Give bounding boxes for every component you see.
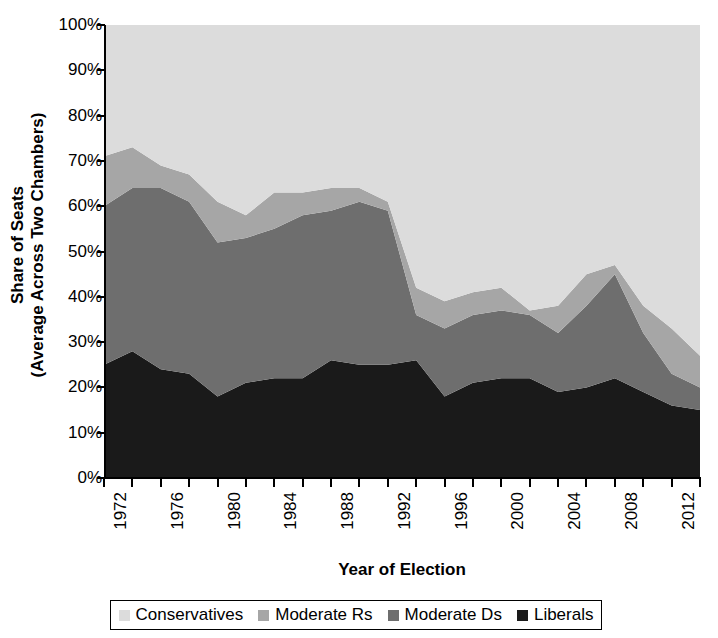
y-axis-tick xyxy=(97,386,105,388)
x-axis-tick xyxy=(160,479,162,487)
legend-swatch-icon xyxy=(119,610,130,621)
y-axis-tick-labels: 0%10%20%30%40%50%60%70%80%90%100% xyxy=(40,0,102,490)
x-axis-tick xyxy=(699,479,701,487)
chart-legend: ConservativesModerate RsModerate DsLiber… xyxy=(110,600,602,630)
x-axis-tick-label-text: 1992 xyxy=(395,492,415,530)
x-axis-tick-label: 1976 xyxy=(151,492,171,554)
area-series-svg xyxy=(104,25,700,478)
x-axis-tick-label-text: 2012 xyxy=(679,492,699,530)
x-axis-tick xyxy=(302,479,304,487)
x-axis-tick-label-text: 1972 xyxy=(111,492,131,530)
x-axis-tick-label: 1980 xyxy=(208,492,228,554)
legend-item[interactable]: Moderate Ds xyxy=(388,605,502,625)
x-axis-tick xyxy=(103,479,105,487)
x-axis-title: Year of Election xyxy=(104,560,700,580)
x-axis-tick xyxy=(358,479,360,487)
x-axis-tick-label-text: 1996 xyxy=(452,492,472,530)
x-axis-tick xyxy=(529,479,531,487)
y-axis-title-line1: Share of Seats xyxy=(8,113,28,378)
x-axis-tick xyxy=(614,479,616,487)
y-axis-tick xyxy=(97,115,105,117)
x-axis-tick xyxy=(444,479,446,487)
plot-area xyxy=(104,25,700,478)
x-axis-tick xyxy=(472,479,474,487)
y-axis-tick xyxy=(97,24,105,26)
x-axis-tick-label: 2012 xyxy=(662,492,682,554)
x-axis-tick-label-text: 2004 xyxy=(565,492,585,530)
legend-label: Liberals xyxy=(534,605,594,625)
x-axis-line xyxy=(104,477,701,479)
legend-swatch-icon xyxy=(517,610,528,621)
legend-swatch-icon xyxy=(258,610,269,621)
x-axis-tick-label: 1996 xyxy=(435,492,455,554)
x-axis-tick-label: 1992 xyxy=(378,492,398,554)
y-axis-tick xyxy=(97,341,105,343)
x-axis-tick xyxy=(387,479,389,487)
y-axis-tick xyxy=(97,160,105,162)
legend-swatch-icon xyxy=(388,610,399,621)
x-axis-tick xyxy=(500,479,502,487)
x-axis-tick xyxy=(217,479,219,487)
x-axis-tick-label: 2000 xyxy=(491,492,511,554)
x-axis-tick xyxy=(557,479,559,487)
y-axis-tick xyxy=(97,432,105,434)
y-axis-tick xyxy=(97,296,105,298)
legend-item[interactable]: Moderate Rs xyxy=(258,605,372,625)
x-axis-tick-label-text: 1976 xyxy=(168,492,188,530)
legend-label: Conservatives xyxy=(136,605,244,625)
legend-item[interactable]: Liberals xyxy=(517,605,594,625)
x-axis-tick xyxy=(273,479,275,487)
legend-label: Moderate Ds xyxy=(405,605,502,625)
legend-label: Moderate Rs xyxy=(275,605,372,625)
x-axis-tick-label-text: 1984 xyxy=(281,492,301,530)
y-axis-tick xyxy=(97,205,105,207)
x-axis-tick-label-text: 2000 xyxy=(508,492,528,530)
x-axis-tick-label-text: 1980 xyxy=(225,492,245,530)
x-axis-tick xyxy=(245,479,247,487)
y-axis-tick-label: 100% xyxy=(59,15,102,35)
stacked-area-chart-figure: Share of Seats (Average Across Two Chamb… xyxy=(0,0,718,638)
y-axis-tick xyxy=(97,69,105,71)
legend-item[interactable]: Conservatives xyxy=(119,605,244,625)
x-axis-tick xyxy=(585,479,587,487)
x-axis-tick-label: 2008 xyxy=(605,492,625,554)
x-axis-tick-label: 1988 xyxy=(321,492,341,554)
x-axis-tick-label: 2004 xyxy=(548,492,568,554)
x-axis-tick xyxy=(642,479,644,487)
x-axis-tick xyxy=(671,479,673,487)
x-axis-tick xyxy=(188,479,190,487)
y-axis-tick xyxy=(97,251,105,253)
x-axis-tick-label: 1972 xyxy=(94,492,114,554)
x-axis-tick-label: 1984 xyxy=(264,492,284,554)
x-axis-tick-label-text: 1988 xyxy=(338,492,358,530)
x-axis-tick xyxy=(415,479,417,487)
x-axis-tick xyxy=(131,479,133,487)
x-axis-tick xyxy=(330,479,332,487)
x-axis-tick-label-text: 2008 xyxy=(622,492,642,530)
